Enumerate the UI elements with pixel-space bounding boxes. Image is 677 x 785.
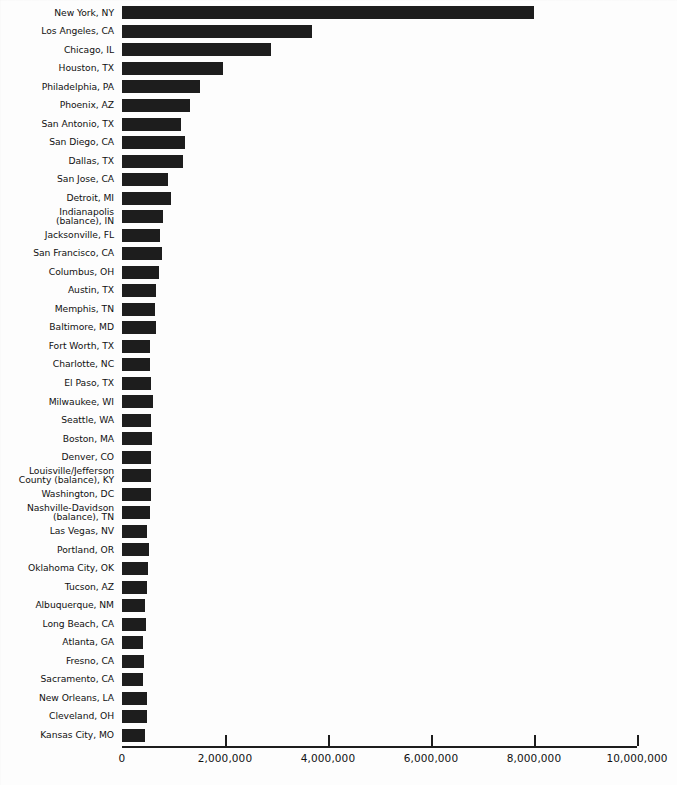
bar-row: Oklahoma City, OK [0,560,677,579]
x-axis-tick [534,735,536,746]
bar-category-label: Tucson, AZ [0,582,114,592]
x-axis-tick-label: 4,000,000 [301,752,355,764]
bar [122,599,145,612]
bar [122,303,155,316]
bar-row: Columbus, OH [0,263,677,282]
bar-row: Nashville-Davidson (balance), TN [0,504,677,523]
bar-category-label: New Orleans, LA [0,693,114,703]
bar-category-label: Portland, OR [0,545,114,555]
bar-category-label: Austin, TX [0,285,114,295]
bar-category-label: Houston, TX [0,63,114,73]
bar-category-label: Boston, MA [0,434,114,444]
bar-row: Tucson, AZ [0,578,677,597]
bar-category-label: San Diego, CA [0,137,114,147]
bar-category-label: Milwaukee, WI [0,397,114,407]
bar-category-label: Dallas, TX [0,156,114,166]
bar-row: Austin, TX [0,282,677,301]
bar-row: Philadelphia, PA [0,78,677,97]
bar [122,432,152,445]
bar-category-label: Nashville-Davidson (balance), TN [0,503,114,522]
bar-category-label: Philadelphia, PA [0,82,114,92]
bar [122,525,147,538]
bar-category-label: Detroit, MI [0,193,114,203]
bar-row: Long Beach, CA [0,615,677,634]
bar-category-label: Denver, CO [0,452,114,462]
bar-row: Sacramento, CA [0,671,677,690]
bar-category-label: Albuquerque, NM [0,600,114,610]
bar-category-label: Chicago, IL [0,45,114,55]
bar [122,469,151,482]
bar-category-label: New York, NY [0,8,114,18]
bar-row: Detroit, MI [0,189,677,208]
bar [122,266,159,279]
bar [122,451,151,464]
bar-category-label: Washington, DC [0,489,114,499]
bar [122,6,534,19]
bar [122,506,150,519]
bar-row: San Francisco, CA [0,245,677,264]
bar [122,692,147,705]
bar [122,321,156,334]
bar-row: Fort Worth, TX [0,337,677,356]
bar-category-label: Indianapolis (balance), IN [0,207,114,226]
bar-category-label: Kansas City, MO [0,730,114,740]
bar-row: Memphis, TN [0,300,677,319]
bar [122,192,171,205]
bar [122,136,185,149]
bar-row: Cleveland, OH [0,708,677,727]
bar-row: San Jose, CA [0,171,677,190]
bar [122,488,151,501]
bar [122,62,223,75]
bar-row: New Orleans, LA [0,689,677,708]
bar [122,710,147,723]
bar-row: El Paso, TX [0,374,677,393]
x-axis-tick-label: 8,000,000 [507,752,561,764]
bar [122,618,146,631]
bar [122,543,149,556]
x-axis-line [122,746,637,748]
bar [122,247,162,260]
bar-category-label: Los Angeles, CA [0,26,114,36]
bar [122,377,151,390]
bar-category-label: Oklahoma City, OK [0,563,114,573]
bar-row: Phoenix, AZ [0,97,677,116]
bar [122,729,145,742]
bar-category-label: Baltimore, MD [0,322,114,332]
bar-row: Charlotte, NC [0,356,677,375]
bar-row: Baltimore, MD [0,319,677,338]
bar-category-label: San Francisco, CA [0,248,114,258]
bar [122,229,160,242]
bar-category-label: Fresno, CA [0,656,114,666]
bar [122,43,271,56]
x-axis-tick [225,735,227,746]
bar-row: Jacksonville, FL [0,226,677,245]
bar-row: Los Angeles, CA [0,23,677,42]
bar-row: Fresno, CA [0,652,677,671]
bar-row: Atlanta, GA [0,634,677,653]
bar-row: New York, NY [0,4,677,23]
bar-category-label: El Paso, TX [0,378,114,388]
x-axis-tick-label: 0 [119,752,126,764]
bar-row: Seattle, WA [0,411,677,430]
bar-category-label: Louisville/Jefferson County (balance), K… [0,466,114,485]
x-axis-tick [637,735,639,746]
bar-category-label: Phoenix, AZ [0,100,114,110]
x-axis-tick-label: 6,000,000 [404,752,458,764]
bar [122,210,163,223]
bar-row: Portland, OR [0,541,677,560]
bar [122,636,143,649]
x-axis-tick [328,735,330,746]
bar [122,99,190,112]
bar-row: Albuquerque, NM [0,597,677,616]
bar [122,118,181,131]
bar-category-label: Memphis, TN [0,304,114,314]
bar-category-label: San Antonio, TX [0,119,114,129]
bar [122,414,151,427]
bar [122,673,143,686]
bar [122,358,150,371]
x-axis-tick-label: 10,000,000 [606,752,667,764]
bar-row: Las Vegas, NV [0,523,677,542]
bar-category-label: Las Vegas, NV [0,526,114,536]
bar-category-label: Jacksonville, FL [0,230,114,240]
bar [122,395,153,408]
